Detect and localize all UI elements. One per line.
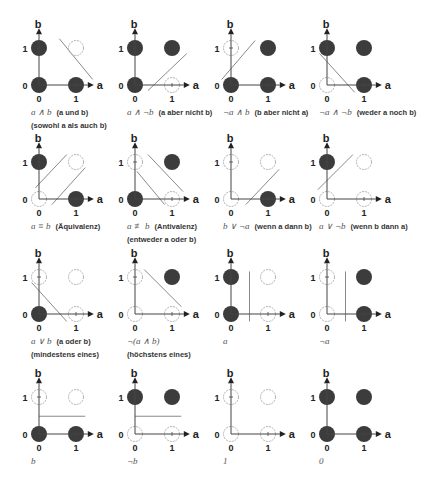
- axis-label-a: a: [385, 193, 392, 205]
- axis-label-b: b: [323, 247, 330, 259]
- tick-label-a-0: 0: [228, 443, 233, 453]
- filled-point: [164, 389, 180, 405]
- axis-label-a: a: [289, 193, 296, 205]
- tick-label-b-1: 1: [118, 44, 123, 54]
- empty-point: [69, 390, 84, 405]
- arrow-right-icon: [184, 82, 190, 88]
- axis-label-a: a: [385, 308, 392, 320]
- tick-label-b-0: 0: [310, 81, 315, 91]
- tick-label-a-0: 0: [36, 208, 41, 218]
- formula-text: a: [223, 336, 228, 346]
- description-secondary-text: (mindestens eines): [31, 350, 99, 359]
- tick-label-b-1: 1: [22, 44, 27, 54]
- panel-2: ba0101: [214, 18, 295, 104]
- tick-label-a-0: 0: [324, 94, 329, 104]
- tick-label-a-0: 0: [132, 208, 137, 218]
- tick-label-a-1: 1: [169, 208, 174, 218]
- panel-15: ba0101: [310, 367, 391, 453]
- tick-label-a-1: 1: [73, 94, 78, 104]
- formula-label: a: [223, 336, 228, 346]
- tick-label-a-0: 0: [132, 323, 137, 333]
- empty-point: [69, 155, 84, 170]
- tick-label-a-1: 1: [169, 94, 174, 104]
- panel-13: ba0101: [118, 367, 199, 453]
- axis-label-b: b: [35, 132, 42, 144]
- axis-label-a: a: [385, 428, 392, 440]
- tick-label-b-1: 1: [22, 158, 27, 168]
- tick-label-b-1: 1: [214, 44, 219, 54]
- tick-label-b-1: 1: [22, 273, 27, 283]
- arrow-right-icon: [88, 311, 94, 317]
- tick-label-b-1: 1: [310, 158, 315, 168]
- formula-text: a ∨ ¬b: [319, 221, 346, 231]
- axis-label-a: a: [97, 308, 104, 320]
- panel-7: ba0101: [310, 132, 391, 218]
- arrow-right-icon: [184, 196, 190, 202]
- arrow-right-icon: [280, 196, 286, 202]
- tick-label-b-0: 0: [310, 430, 315, 440]
- axis-label-a: a: [193, 193, 200, 205]
- formula-label: ¬(a ∧ b): [127, 336, 160, 346]
- filled-point: [164, 269, 180, 285]
- filled-point: [164, 40, 180, 56]
- panel-11: ba0101: [310, 247, 391, 333]
- tick-label-a-1: 1: [73, 323, 78, 333]
- description-text: (weder a noch b): [357, 108, 417, 117]
- axis-label-a: a: [193, 308, 200, 320]
- formula-text: a ≡ b: [31, 221, 51, 231]
- tick-label-a-0: 0: [228, 323, 233, 333]
- tick-label-b-1: 1: [214, 158, 219, 168]
- formula-text: 0: [319, 456, 324, 466]
- axis-label-a: a: [97, 428, 104, 440]
- axis-label-b: b: [35, 367, 42, 379]
- arrow-right-icon: [376, 431, 382, 437]
- tick-label-a-1: 1: [361, 94, 366, 104]
- arrow-right-icon: [280, 311, 286, 317]
- axis-label-b: b: [323, 132, 330, 144]
- tick-label-a-0: 0: [132, 443, 137, 453]
- panel-6: ba0101: [214, 132, 295, 218]
- formula-text: a ≢ b: [127, 221, 150, 231]
- formula-label: ¬a ∧ b(b aber nicht a): [223, 107, 308, 117]
- axis-label-b: b: [227, 18, 234, 30]
- panel-8: ba0101: [22, 247, 103, 333]
- tick-label-b-0: 0: [214, 195, 219, 205]
- description-text: (a und b): [57, 108, 89, 117]
- tick-label-a-1: 1: [265, 94, 270, 104]
- panel-0: ba0101: [22, 18, 103, 104]
- tick-label-a-0: 0: [324, 208, 329, 218]
- tick-label-a-1: 1: [361, 323, 366, 333]
- panel-10: ba0101: [214, 247, 295, 333]
- axis-label-b: b: [227, 132, 234, 144]
- description-text: (wenn a dann b): [255, 222, 312, 231]
- tick-label-a-0: 0: [36, 443, 41, 453]
- formula-label: 1: [223, 456, 228, 466]
- formula-label: ¬b: [127, 456, 138, 466]
- filled-point: [356, 40, 372, 56]
- axis-label-b: b: [35, 247, 42, 259]
- tick-label-b-1: 1: [118, 273, 123, 283]
- empty-point: [357, 155, 372, 170]
- empty-point: [261, 270, 276, 285]
- axis-label-b: b: [131, 367, 138, 379]
- diagram-svg: ba0101ba0101ba0101ba0101ba0101ba0101ba01…: [0, 0, 425, 481]
- axis-label-a: a: [385, 79, 392, 91]
- axis-label-a: a: [193, 428, 200, 440]
- axis-label-b: b: [35, 18, 42, 30]
- axis-label-b: b: [227, 247, 234, 259]
- description-secondary-text: (entweder a oder b): [127, 235, 196, 244]
- formula-text: ¬(a ∧ b): [127, 336, 160, 346]
- axis-label-b: b: [131, 132, 138, 144]
- tick-label-a-1: 1: [361, 208, 366, 218]
- tick-label-b-0: 0: [214, 430, 219, 440]
- formula-label: 0: [319, 456, 324, 466]
- tick-label-b-0: 0: [310, 195, 315, 205]
- empty-point: [69, 270, 84, 285]
- axis-label-a: a: [97, 79, 104, 91]
- tick-label-a-1: 1: [169, 443, 174, 453]
- arrow-right-icon: [184, 311, 190, 317]
- arrow-right-icon: [88, 82, 94, 88]
- separator-line: [59, 39, 92, 80]
- formula-label: b ∨ ¬a(wenn a dann b): [223, 221, 312, 231]
- arrow-right-icon: [376, 311, 382, 317]
